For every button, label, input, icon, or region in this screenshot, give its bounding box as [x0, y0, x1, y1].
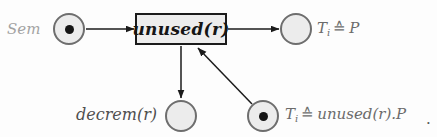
ti-p-base: T [317, 19, 327, 37]
ti-p-label: Ti≙P [317, 21, 359, 36]
ti-p-rhs: P [349, 19, 359, 37]
token-sem [65, 25, 74, 34]
token-ti-unused [259, 112, 268, 121]
decrem-label: decrem(r) [76, 107, 157, 123]
place-ti-p [280, 13, 312, 45]
ti-p-rel: ≙ [330, 19, 349, 37]
ti-unused-label: Ti≙unused(r).P [285, 107, 406, 122]
ti-unused-rhs: unused(r).P [317, 105, 406, 123]
ti-unused-base: T [285, 105, 295, 123]
transition-unused: unused(r) [135, 13, 227, 45]
place-sem [53, 13, 85, 45]
sentence-period: . [426, 112, 431, 127]
sem-label: Sem [7, 22, 40, 37]
arrow-ti-unused-to-transition [198, 48, 252, 104]
petri-net-diagram: unused(r) Sem Ti≙P decrem(r) Ti≙unused(r… [0, 0, 437, 137]
transition-label: unused(r) [132, 19, 229, 39]
place-decrem [165, 100, 197, 132]
ti-unused-rel: ≙ [298, 105, 317, 123]
place-ti-unused [247, 100, 279, 132]
